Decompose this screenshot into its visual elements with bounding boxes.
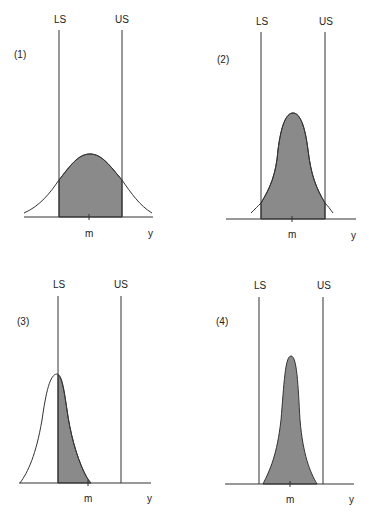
upper-spec-label: US [115,14,129,25]
in-spec-area [58,375,91,483]
panel-2: (2) LS US m y [217,16,356,241]
panel-1: (1) LS US m y [14,14,153,239]
mean-label: m [286,494,294,505]
lower-spec-label: LS [54,14,67,25]
panel-4: (4) LS US m y [216,280,354,505]
lower-spec-label: LS [256,16,269,27]
in-spec-area [59,154,122,217]
upper-spec-label: US [319,16,333,27]
mean-label: m [288,229,296,240]
upper-spec-label: US [317,280,331,291]
in-spec-area [261,113,325,219]
panel-label: (3) [17,316,29,327]
mean-label: m [85,228,93,239]
panel-3: (3) LS US m y [17,279,152,504]
lower-spec-label: LS [53,279,66,290]
panel-label: (4) [216,316,228,327]
distribution-area [263,356,317,484]
upper-spec-label: US [114,279,128,290]
panel-label: (1) [14,49,26,60]
lower-spec-label: LS [254,280,267,291]
axis-label: y [351,230,356,241]
axis-label: y [147,493,152,504]
figure-canvas: (1) LS US m y (2) LS US m y (3) LS US [0,0,378,518]
mean-label: m [84,493,92,504]
axis-label: y [349,494,354,505]
panel-label: (2) [217,54,229,65]
axis-label: y [148,228,153,239]
